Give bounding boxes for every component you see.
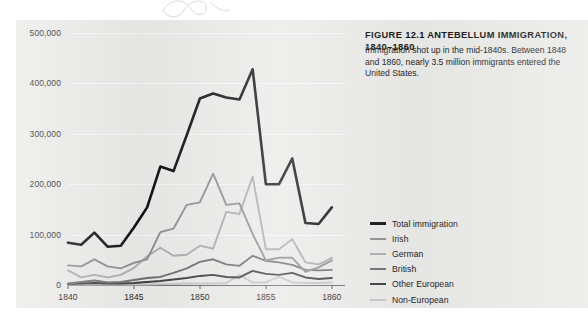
- chart-legend: Total immigrationIrishGermanBritishOther…: [370, 216, 585, 307]
- x-axis-tick-label: 1860: [322, 292, 341, 302]
- legend-swatch-icon: [370, 253, 386, 255]
- legend-item-non-european[interactable]: Non-European: [370, 292, 585, 307]
- legend-swatch-icon: [370, 283, 386, 285]
- x-axis-tick-label: 1845: [124, 292, 143, 302]
- series-line-total-immigration: [68, 69, 332, 246]
- legend-item-other-european[interactable]: Other European: [370, 277, 585, 292]
- y-axis-tick-label: 0: [56, 280, 61, 290]
- chart-area: 0100,000200,000300,000400,000500,0001840…: [16, 20, 361, 308]
- figure-text-column: FIGURE 12.1 ANTEBELLUM IMMIGRATION, 1840…: [365, 20, 588, 308]
- legend-item-german[interactable]: German: [370, 246, 585, 261]
- figure-panel: 0100,000200,000300,000400,000500,0001840…: [16, 20, 588, 308]
- legend-item-total-immigration[interactable]: Total immigration: [370, 216, 585, 231]
- legend-label: Total immigration: [392, 219, 458, 229]
- x-axis-tick: [68, 285, 69, 289]
- legend-label: German: [392, 249, 423, 259]
- legend-label: British: [392, 264, 416, 274]
- legend-item-irish[interactable]: Irish: [370, 231, 585, 246]
- x-axis-tick: [133, 285, 134, 289]
- legend-swatch-icon: [370, 238, 386, 240]
- series-line-british: [68, 256, 332, 284]
- y-axis-tick-label: 100,000: [30, 230, 61, 240]
- figure-caption: Immigration shot up in the mid-1840s. Be…: [365, 45, 579, 80]
- y-axis-tick-label: 500,000: [30, 28, 61, 38]
- x-axis-tick: [199, 285, 200, 289]
- y-axis-tick-label: 400,000: [30, 78, 61, 88]
- legend-swatch-icon: [370, 268, 386, 270]
- plot-area: 0100,000200,000300,000400,000500,0001840…: [68, 33, 345, 285]
- pencil-scribble-icon: [150, 0, 290, 20]
- legend-swatch-icon: [370, 299, 386, 301]
- y-axis-tick-label: 300,000: [30, 129, 61, 139]
- x-axis-tick-label: 1840: [58, 292, 77, 302]
- scan-artifact: [0, 0, 588, 20]
- x-axis-tick: [265, 285, 266, 289]
- x-axis-tick-label: 1850: [190, 292, 209, 302]
- series-line-irish: [68, 174, 332, 272]
- legend-item-british[interactable]: British: [370, 262, 585, 277]
- legend-label: Non-European: [392, 295, 449, 305]
- legend-swatch-icon: [370, 222, 386, 225]
- x-axis-tick: [331, 285, 332, 289]
- legend-label: Irish: [392, 234, 409, 244]
- legend-label: Other European: [392, 279, 454, 289]
- x-axis-tick-label: 1855: [256, 292, 275, 302]
- y-axis-tick-label: 200,000: [30, 179, 61, 189]
- series-lines: [68, 33, 345, 285]
